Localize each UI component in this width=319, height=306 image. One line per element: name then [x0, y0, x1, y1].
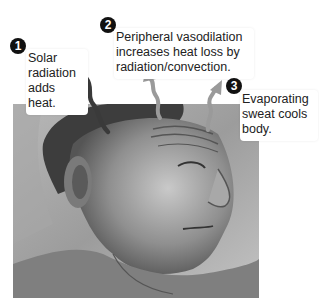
callout-1-line-1: Solar [28, 51, 86, 66]
callout-3-text: Evaporating sweat cools body. [240, 90, 318, 141]
callout-2-line-3: radiation/convection. [116, 60, 252, 75]
callout-1-badge: 1 [10, 38, 26, 54]
callout-1-text: Solar radiation adds heat. [26, 49, 88, 115]
callout-1-line-3: adds heat. [28, 81, 86, 111]
callout-2-text: Peripheral vasodilation increases heat l… [114, 28, 254, 79]
evaporation-arrow-shaft [208, 88, 216, 130]
vasodilation-heat-loss-arrow-shaft [150, 78, 160, 118]
callout-2-line-2: increases heat loss by [116, 45, 252, 60]
callout-3-line-2: sweat cools [242, 107, 314, 122]
callout-3-line-1: Evaporating [242, 92, 314, 107]
callout-3-line-3: body. [242, 122, 314, 137]
callout-1-line-2: radiation [28, 66, 86, 81]
callout-2-line-1: Peripheral vasodilation [116, 30, 252, 45]
